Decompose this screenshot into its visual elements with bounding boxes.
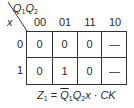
row-header: 0 xyxy=(13,39,23,50)
column-header: 11 xyxy=(77,17,103,28)
kmap-cell: 0 xyxy=(52,31,77,57)
kmap-cell: 0 xyxy=(77,58,102,84)
top-variable-label: Q1Q2 xyxy=(13,3,38,17)
kmap-cell-dontcare: — xyxy=(102,31,127,57)
side-variable-label: x xyxy=(7,17,13,28)
kmap-cell: 1 xyxy=(52,58,77,84)
equation: Z1 = Q1Q2x · CK xyxy=(37,89,116,102)
kmap-cell: 0 xyxy=(77,31,102,57)
kmap-cell: 0 xyxy=(27,31,52,57)
kmap-cell-dontcare: — xyxy=(102,58,127,84)
row-header: 1 xyxy=(13,65,23,76)
column-header: 10 xyxy=(102,17,128,28)
kmap-cell: 0 xyxy=(27,58,52,84)
column-header: 01 xyxy=(52,17,78,28)
column-header: 00 xyxy=(27,17,53,28)
